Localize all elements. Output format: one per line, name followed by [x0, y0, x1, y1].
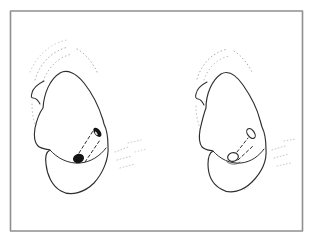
motion-hatch-marks — [284, 139, 296, 141]
left-heart-figure — [30, 40, 146, 194]
motion-hatch-marks — [128, 140, 141, 143]
stipple-halo-arc — [30, 40, 67, 72]
vessel-stump-hook — [31, 81, 44, 104]
motion-hatch-marks — [120, 164, 135, 168]
motion-hatch-marks — [272, 146, 285, 150]
illustration-canvas — [0, 0, 311, 240]
motion-hatch-marks — [117, 156, 132, 160]
stipple-halo-arc — [77, 49, 98, 74]
right-heart-figure — [196, 49, 296, 192]
motion-hatch-marks — [115, 147, 128, 152]
heart-outline — [199, 73, 266, 192]
vessel-stump-hook — [196, 82, 207, 105]
motion-hatch-marks — [135, 149, 146, 152]
stipple-halo-arc — [234, 51, 253, 74]
motion-hatch-marks — [274, 154, 289, 158]
illustration-panel — [0, 0, 311, 240]
motion-hatch-marks — [277, 163, 291, 166]
